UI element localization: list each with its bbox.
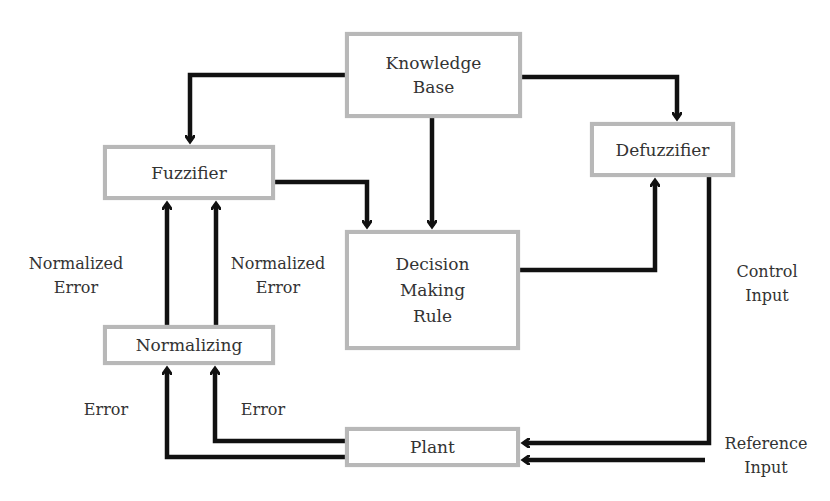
knowledge-base-block: Knowledge Base [345,32,522,118]
defuzzifier-block: Defuzzifier [590,122,735,177]
arrow-kb-to-fuzzifier [190,75,345,141]
normalized-error-right-label: Normalized Error [218,252,338,300]
reference-input-label: Reference Input [716,432,816,480]
knowledge-base-line2: Base [413,75,454,99]
error-right-label: Error [233,398,293,422]
diagram-canvas: Knowledge Base Fuzzifier Defuzzifier Dec… [0,0,830,501]
decision-line3: Rule [413,303,452,329]
plant-label: Plant [410,435,455,459]
fuzzifier-block: Fuzzifier [103,145,275,200]
normalizing-label: Normalizing [136,333,243,357]
fuzzifier-label: Fuzzifier [151,161,227,185]
defuzzifier-label: Defuzzifier [616,138,710,162]
error-left-label: Error [76,398,136,422]
knowledge-base-line1: Knowledge [386,51,482,75]
arrow-kb-to-defuzzifier [522,77,677,118]
arrow-control-input [524,177,709,443]
normalized-error-left-label: Normalized Error [16,252,136,300]
arrow-fuzzifier-to-decision [275,182,367,226]
arrow-decision-to-defuzzifier [520,181,655,270]
decision-making-rule-block: Decision Making Rule [345,230,520,350]
normalizing-block: Normalizing [103,325,275,365]
decision-line1: Decision [396,251,470,277]
decision-line2: Making [400,277,465,303]
plant-block: Plant [345,427,520,467]
control-input-label: Control Input [722,260,812,308]
